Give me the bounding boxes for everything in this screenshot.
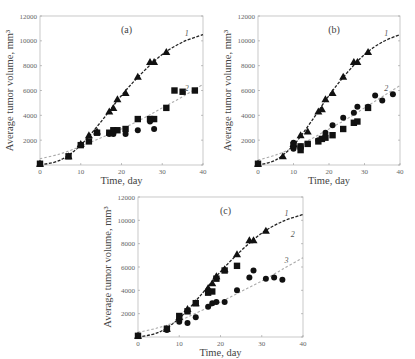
circle-marker (110, 131, 116, 137)
triangle-marker (364, 48, 372, 55)
panel-label: (c) (220, 205, 231, 217)
x-tick-label: 40 (300, 340, 308, 348)
fit-curve-1 (258, 35, 400, 165)
square-marker (329, 132, 335, 138)
triangle-marker (329, 89, 337, 96)
plot-frame (138, 197, 303, 337)
fit-curve-2 (258, 86, 400, 161)
curve-number-label: 2 (384, 84, 388, 93)
circle-marker (251, 268, 257, 274)
panel-b-chart: 20004000600080001000012000010203040Time,… (222, 13, 404, 187)
y-tick-label: 2000 (241, 137, 256, 145)
circle-marker (193, 314, 199, 320)
x-tick-label: 0 (256, 168, 260, 176)
circle-marker (354, 104, 360, 110)
curve-number-label: 1 (284, 209, 288, 218)
square-marker (94, 130, 100, 136)
curve-number-label: 2 (185, 84, 189, 93)
circle-marker (379, 97, 385, 103)
square-marker (305, 141, 311, 147)
circle-marker (246, 275, 252, 281)
circle-marker (222, 299, 228, 305)
x-axis-label: Time, day (199, 347, 242, 358)
circle-marker (213, 299, 219, 305)
plot-frame (258, 16, 400, 165)
circle-marker (263, 276, 269, 282)
square-marker (209, 288, 215, 294)
square-marker (340, 126, 346, 132)
x-axis-label: Time, day (100, 175, 143, 186)
square-marker (221, 267, 227, 273)
y-tick-label: 8000 (241, 62, 256, 70)
square-marker (65, 153, 71, 159)
square-marker (255, 161, 261, 167)
circle-marker (185, 320, 191, 326)
x-tick-label: 0 (136, 340, 140, 348)
y-tick-label: 2000 (23, 137, 38, 145)
y-tick-label: 2000 (121, 310, 136, 318)
y-tick-label: 10000 (238, 37, 256, 45)
square-marker (193, 300, 199, 306)
curve-number-label: 2 (291, 230, 295, 239)
circle-marker (151, 126, 157, 132)
circle-marker (135, 333, 141, 339)
square-marker (365, 105, 371, 111)
x-tick-label: 30 (361, 168, 369, 176)
circle-marker (37, 161, 43, 167)
triangle-marker (318, 105, 326, 112)
x-axis-label: Time, day (308, 175, 351, 186)
square-marker (354, 118, 360, 124)
y-tick-label: 12000 (238, 13, 256, 21)
square-marker (290, 142, 296, 148)
triangle-marker (262, 227, 270, 234)
circle-marker (234, 287, 240, 293)
y-tick-label: 10000 (118, 217, 136, 225)
square-marker (176, 313, 182, 319)
fit-curve-1 (138, 215, 303, 338)
triangle-marker (122, 89, 130, 96)
square-marker (234, 263, 240, 269)
fit-curve-2 (138, 258, 303, 333)
square-marker (184, 308, 190, 314)
x-tick-label: 30 (258, 340, 266, 348)
y-axis-label: Average tumor volume, mm³ (102, 206, 113, 327)
x-tick-label: 40 (397, 168, 405, 176)
circle-marker (390, 91, 396, 97)
x-tick-label: 10 (176, 340, 184, 348)
square-marker (213, 275, 219, 281)
y-tick-label: 6000 (121, 264, 136, 272)
panel-label: (a) (121, 24, 132, 36)
square-marker (322, 134, 328, 140)
square-marker (171, 87, 177, 93)
y-tick-label: 12000 (118, 194, 136, 202)
triangle-marker (297, 131, 305, 138)
square-marker (86, 138, 92, 144)
y-axis-label: Average tumor volume, mm³ (4, 30, 15, 151)
square-marker (297, 147, 303, 153)
plot-frame (40, 16, 203, 165)
figure: 20004000600080001000012000010203040Time,… (0, 0, 415, 359)
curve-number-label: 3 (283, 256, 288, 265)
x-tick-label: 10 (290, 168, 298, 176)
circle-marker (351, 110, 357, 116)
circle-marker (147, 119, 153, 125)
y-tick-label: 10000 (20, 37, 38, 45)
panel-c-chart: 20004000600080001000012000010203040Time,… (102, 194, 307, 359)
square-marker (192, 87, 198, 93)
circle-marker (176, 319, 182, 325)
curve-number-label: 1 (384, 29, 388, 38)
circle-marker (372, 92, 378, 98)
curve-number-label: 1 (185, 29, 189, 38)
fit-curve-1 (40, 35, 203, 165)
y-axis-label: Average tumor volume, mm³ (222, 30, 233, 151)
circle-marker (135, 127, 141, 133)
y-tick-label: 8000 (23, 62, 38, 70)
y-tick-label: 4000 (241, 112, 256, 120)
square-marker (78, 142, 84, 148)
triangle-marker (109, 104, 117, 111)
panel-a-chart: 20004000600080001000012000010203040Time,… (4, 13, 207, 187)
triangle-marker (339, 73, 347, 80)
circle-marker (123, 131, 129, 137)
x-tick-label: 40 (200, 168, 208, 176)
x-tick-label: 10 (77, 168, 85, 176)
